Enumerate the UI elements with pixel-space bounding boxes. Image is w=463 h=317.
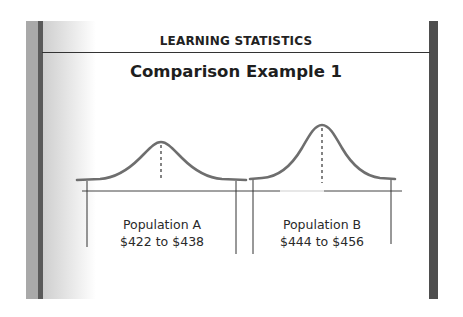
distribution-diagram: [0, 0, 463, 317]
slide: LEARNING STATISTICS Comparison Example 1…: [0, 0, 463, 317]
population-a-name: Population A: [100, 216, 224, 233]
population-a-range: $422 to $438: [100, 233, 224, 250]
population-a-label: Population A $422 to $438: [100, 216, 224, 250]
population-b-label: Population B $444 to $456: [260, 216, 384, 250]
population-b-range: $444 to $456: [260, 233, 384, 250]
population-b-name: Population B: [260, 216, 384, 233]
